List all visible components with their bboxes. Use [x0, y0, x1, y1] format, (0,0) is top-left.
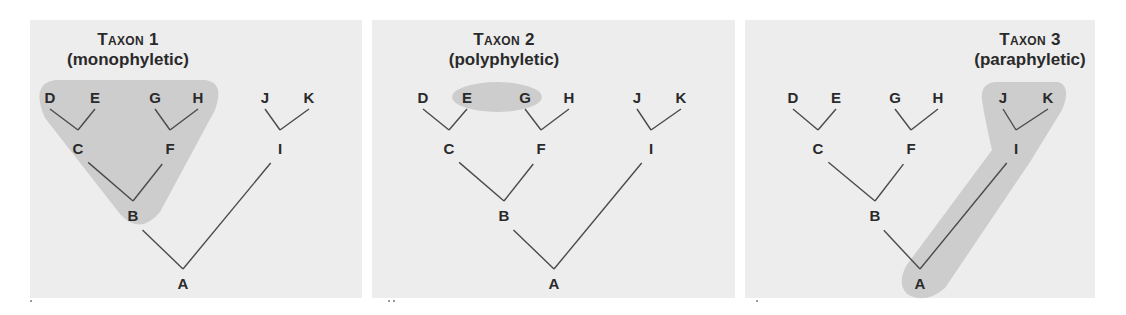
title-taxon2-type: (polyphyletic): [449, 50, 560, 70]
branch-F-B: [504, 164, 533, 201]
branch-G-F: [895, 109, 911, 130]
node-i-taxon2: I: [649, 141, 653, 156]
node-a-taxon2: A: [549, 276, 560, 291]
node-b-taxon3: B: [870, 208, 881, 223]
branch-B-A: [513, 230, 554, 269]
stray-mark: [388, 300, 390, 302]
node-h-taxon2: H: [564, 90, 575, 105]
branch-B-A: [884, 230, 920, 269]
branch-K-I: [280, 109, 309, 130]
node-f-taxon1: F: [165, 141, 174, 156]
branch-D-C: [793, 109, 818, 130]
branch-C-B: [459, 162, 504, 201]
title-taxon2-name: Taxon 2: [449, 30, 560, 50]
branch-D-C: [423, 109, 449, 130]
node-d-taxon2: D: [418, 90, 429, 105]
branch-F-B: [875, 164, 903, 201]
branch-H-F: [911, 109, 938, 130]
branch-J-I: [637, 109, 651, 130]
node-i-taxon1: I: [278, 141, 282, 156]
node-k-taxon2: K: [676, 90, 687, 105]
node-f-taxon2: F: [536, 141, 545, 156]
taxon-highlight-taxon1: [39, 80, 218, 225]
node-j-taxon3: J: [999, 90, 1007, 105]
title-taxon3-type: (paraphyletic): [974, 50, 1085, 70]
node-j-taxon2: J: [633, 90, 641, 105]
branch-E-C: [449, 109, 467, 130]
node-g-taxon3: G: [889, 90, 901, 105]
node-d-taxon3: D: [788, 90, 799, 105]
branch-I-A: [554, 163, 642, 269]
branch-H-F: [541, 109, 569, 130]
node-k-taxon3: K: [1043, 90, 1054, 105]
node-h-taxon1: H: [193, 90, 204, 105]
node-c-taxon2: C: [444, 141, 455, 156]
title-taxon2: Taxon 2 (polyphyletic): [449, 30, 560, 70]
title-taxon3-name: Taxon 3: [974, 30, 1085, 50]
node-e-taxon1: E: [90, 90, 100, 105]
branch-G-F: [525, 109, 541, 130]
branch-I-A: [183, 163, 271, 269]
node-k-taxon1: K: [304, 90, 315, 105]
node-e-taxon3: E: [831, 90, 841, 105]
node-h-taxon3: H: [933, 90, 944, 105]
title-taxon1: Taxon 1 (monophyletic): [67, 30, 189, 70]
stray-mark: [30, 300, 32, 302]
branch-J-I: [265, 109, 280, 130]
node-c-taxon3: C: [813, 141, 824, 156]
node-j-taxon1: J: [261, 90, 269, 105]
node-b-taxon2: B: [499, 208, 510, 223]
node-b-taxon1: B: [128, 208, 139, 223]
stray-mark: [393, 300, 395, 302]
node-g-taxon2: G: [519, 90, 531, 105]
title-taxon1-type: (monophyletic): [67, 50, 189, 70]
node-g-taxon1: G: [149, 90, 161, 105]
node-d-taxon1: D: [45, 90, 56, 105]
title-taxon1-name: Taxon 1: [67, 30, 189, 50]
branch-E-C: [818, 109, 836, 130]
node-c-taxon1: C: [73, 141, 84, 156]
branch-C-B: [828, 162, 875, 201]
branch-K-I: [651, 109, 681, 130]
node-a-taxon1: A: [178, 276, 189, 291]
node-a-taxon3: A: [915, 276, 926, 291]
node-i-taxon3: I: [1014, 141, 1018, 156]
stray-mark: [756, 300, 758, 302]
node-e-taxon2: E: [462, 90, 472, 105]
node-f-taxon3: F: [906, 141, 915, 156]
title-taxon3: Taxon 3 (paraphyletic): [974, 30, 1085, 70]
branch-B-A: [142, 230, 183, 269]
